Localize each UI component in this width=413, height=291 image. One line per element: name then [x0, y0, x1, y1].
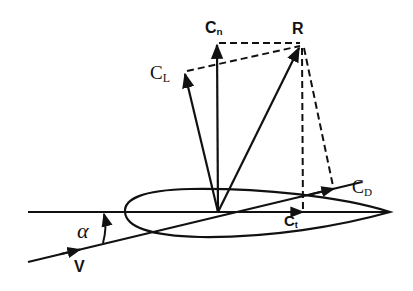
r-to-ct-dashed: [302, 48, 303, 212]
alpha-label: α: [77, 220, 89, 242]
r-to-cd-dashed: [304, 48, 333, 186]
r-to-cl-dashed: [187, 46, 300, 71]
cn-label: Cn: [205, 20, 223, 36]
r-label: R: [292, 21, 304, 37]
cl-vector: [185, 74, 218, 212]
r-vector: [218, 48, 299, 212]
cl-label: CL: [150, 63, 170, 82]
velocity-arrow: [60, 250, 80, 255]
alpha-arc-icon: [103, 214, 105, 243]
diagram-canvas: [0, 0, 413, 291]
cd-label: CD: [352, 178, 372, 196]
cd-vector: [310, 189, 334, 195]
cn-vector: [217, 45, 218, 212]
airfoil-force-diagram: Cn R CL CD Ct α V: [0, 0, 413, 291]
v-label: V: [74, 259, 85, 275]
ct-label: Ct: [284, 213, 298, 228]
